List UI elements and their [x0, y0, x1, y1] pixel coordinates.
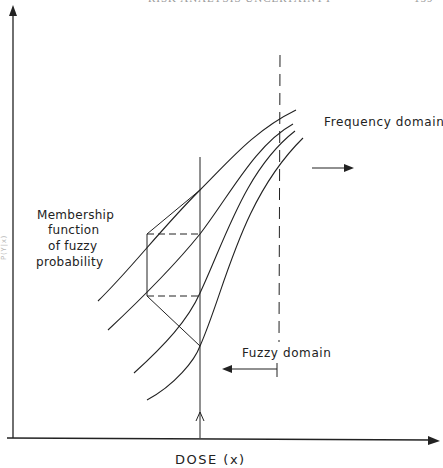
fuzzy-domain-label: Fuzzy domain [242, 346, 332, 360]
membership-function-label: Membership function of fuzzy probability [36, 208, 114, 269]
dose-line [196, 157, 204, 438]
fuzzy-domain-arrow [222, 363, 277, 377]
arrow-left-icon [222, 365, 232, 373]
membership-label-line-4: probability [36, 255, 103, 269]
y-axis [9, 5, 17, 438]
curve-3 [134, 131, 295, 373]
arrow-right-icon [344, 164, 354, 172]
x-axis [7, 436, 440, 445]
x-axis-label: DOSE (x) [175, 452, 246, 467]
membership-function [147, 190, 200, 346]
membership-label-line-3: of fuzzy [48, 239, 97, 253]
y-axis-arrow-icon [9, 5, 17, 16]
domain-boundary-dashed-line [279, 55, 280, 342]
page: RISK ANALYSIS UNCERTAINTY 159 P(Y|x) [0, 0, 443, 468]
frequency-domain-label: Frequency domain [324, 115, 443, 129]
frequency-domain-arrow [312, 164, 354, 172]
membership-label-line-1: Membership [37, 208, 114, 222]
fuzzy-probability-diagram: Frequency domain Fuzzy domain Membership… [0, 0, 443, 468]
curve-1 [98, 110, 296, 301]
x-axis-arrow-icon [428, 436, 440, 445]
membership-label-line-2: function [48, 223, 99, 237]
